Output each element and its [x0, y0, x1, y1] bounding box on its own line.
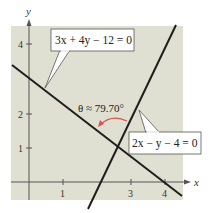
- y-axis-label: y: [25, 5, 31, 17]
- svg-text:1: 1: [60, 188, 65, 199]
- svg-text:1: 1: [18, 143, 23, 154]
- svg-text:4: 4: [162, 188, 167, 199]
- svg-text:2: 2: [18, 109, 23, 120]
- svg-text:3x + 4y − 12 = 0: 3x + 4y − 12 = 0: [55, 34, 132, 47]
- y-axis-arrow-icon: [27, 19, 32, 26]
- svg-text:3: 3: [128, 188, 133, 199]
- svg-text:2x − y − 4 = 0: 2x − y − 4 = 0: [132, 137, 198, 150]
- x-axis-label: x: [193, 176, 199, 188]
- chart-figure: y x 1 3 4 1 2 4 θ ≈ 79.70° 3x + 4y − 1: [0, 0, 211, 213]
- svg-text:4: 4: [18, 39, 23, 50]
- angle-label: θ ≈ 79.70°: [78, 102, 124, 114]
- x-axis-arrow-icon: [184, 180, 191, 185]
